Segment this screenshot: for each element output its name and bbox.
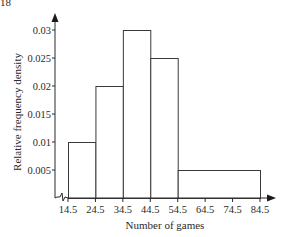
y-tick-label: 0.02 bbox=[33, 81, 51, 92]
x-tick-label: 54.5 bbox=[169, 204, 187, 215]
y-tick-label: 0.005 bbox=[27, 165, 51, 176]
histogram-bar-1 bbox=[69, 143, 96, 199]
x-tick-label: 64.5 bbox=[196, 204, 214, 215]
corner-label: 18 bbox=[0, 0, 12, 8]
histogram-bar-4 bbox=[151, 59, 178, 199]
histogram-chart: 18 0.0050.010.0150.020.0250.03 14.524.53… bbox=[0, 0, 281, 237]
y-axis-ticks: 0.0050.010.0150.020.0250.03 bbox=[27, 25, 55, 176]
x-tick-label: 44.5 bbox=[141, 204, 159, 215]
y-tick-label: 0.015 bbox=[27, 109, 51, 120]
histogram-bar-5 bbox=[178, 171, 260, 199]
y-axis-title: Relative frequency density bbox=[11, 53, 23, 171]
y-tick-label: 0.03 bbox=[33, 25, 51, 36]
y-tick-label: 0.01 bbox=[33, 137, 51, 148]
y-axis-arrow-icon bbox=[52, 13, 59, 22]
histogram-bar-2 bbox=[96, 87, 123, 199]
x-tick-label: 14.5 bbox=[59, 204, 77, 215]
x-tick-label: 34.5 bbox=[114, 204, 132, 215]
x-axis-ticks: 14.524.534.544.554.564.574.584.5 bbox=[59, 198, 269, 215]
x-tick-label: 74.5 bbox=[223, 204, 241, 215]
y-tick-label: 0.025 bbox=[27, 53, 51, 64]
x-axis-title: Number of games bbox=[126, 219, 205, 231]
x-tick-label: 84.5 bbox=[251, 204, 269, 215]
x-axis-break-icon bbox=[55, 193, 68, 201]
x-axis-arrow-icon bbox=[267, 195, 276, 202]
x-tick-label: 24.5 bbox=[86, 204, 104, 215]
histogram-bars bbox=[69, 31, 261, 199]
histogram-bar-3 bbox=[123, 31, 150, 199]
